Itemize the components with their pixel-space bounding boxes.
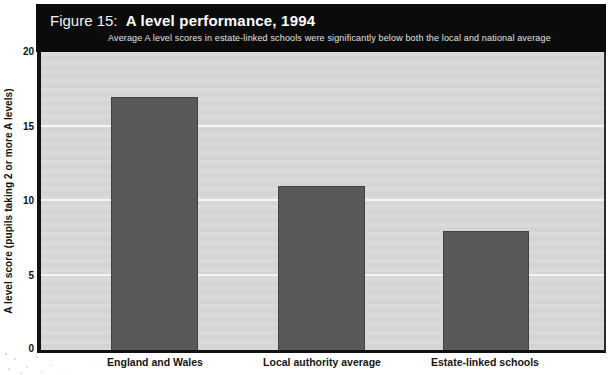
scan-noise-specks bbox=[5, 353, 7, 355]
bar-estate-linked-schools bbox=[443, 231, 529, 350]
plot-area bbox=[37, 52, 606, 353]
figure-header: Figure 15: A level performance, 1994 Ave… bbox=[36, 4, 606, 52]
y-tick-20: 20 bbox=[8, 45, 34, 59]
figure-subtitle: Average A level scores in estate-linked … bbox=[108, 33, 606, 44]
y-tick-0: 0 bbox=[8, 342, 34, 356]
y-tick-10: 10 bbox=[8, 194, 34, 208]
figure-number-label: Figure 15: bbox=[50, 12, 118, 29]
x-label-local-authority-average: Local authority average bbox=[237, 356, 407, 368]
bar-local-authority-average bbox=[278, 186, 365, 350]
figure-title-line: Figure 15: A level performance, 1994 bbox=[50, 12, 606, 30]
figure-title: A level performance, 1994 bbox=[126, 12, 316, 29]
y-tick-5: 5 bbox=[8, 269, 34, 283]
y-tick-15: 15 bbox=[8, 120, 34, 134]
figure-15-chart: Figure 15: A level performance, 1994 Ave… bbox=[0, 0, 610, 375]
x-label-england-and-wales: England and Wales bbox=[70, 356, 240, 368]
x-label-estate-linked-schools: Estate-linked schools bbox=[400, 356, 570, 368]
bar-england-and-wales bbox=[111, 97, 198, 350]
